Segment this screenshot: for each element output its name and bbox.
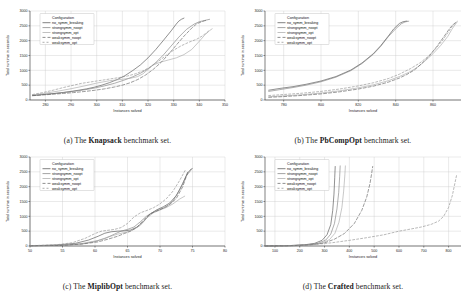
caption-b-suffix: benchmark set. (362, 136, 411, 145)
svg-text:700: 700 (421, 249, 427, 253)
legend: Configurationno_symm_breakingstrongsymm_… (40, 160, 94, 191)
caption-b: (b) The PbCompOpt benchmark set. (235, 136, 471, 145)
svg-text:2500: 2500 (19, 170, 27, 174)
svg-text:860: 860 (430, 103, 436, 107)
svg-text:1500: 1500 (254, 200, 262, 204)
svg-text:200: 200 (297, 249, 303, 253)
legend-label-no_symm_breaking: no_symm_breaking (52, 21, 83, 25)
svg-text:60: 60 (93, 249, 97, 253)
svg-text:2000: 2000 (19, 39, 27, 43)
svg-text:2500: 2500 (254, 170, 262, 174)
svg-text:Configuration: Configuration (52, 162, 74, 166)
svg-text:55: 55 (61, 249, 65, 253)
caption-d-bold: Crafted (328, 282, 354, 291)
cactus-plot-miplibopt: 05001000150020002500300050556065707580In… (0, 146, 235, 272)
series-line-strongsymm_opt (30, 196, 185, 246)
svg-text:0: 0 (260, 244, 262, 248)
caption-d-prefix: (d) The (303, 282, 328, 291)
cactus-plot-pbcompopt: 050010001500200025003000780800820840860I… (235, 0, 471, 126)
panel-b: 050010001500200025003000780800820840860I… (235, 0, 471, 146)
legend-label-no_symm_breaking: no_symm_breaking (287, 167, 318, 171)
legend-label-weaksymm_noopt: weaksymm_noopt (287, 182, 316, 186)
caption-c-suffix: benchmark set. (123, 282, 172, 291)
svg-text:0: 0 (260, 98, 262, 102)
svg-text:280: 280 (42, 103, 48, 107)
legend-label-weaksymm_noopt: weaksymm_noopt (287, 36, 316, 40)
svg-text:500: 500 (21, 229, 27, 233)
svg-text:65: 65 (126, 249, 130, 253)
svg-text:350: 350 (222, 103, 228, 107)
svg-text:1500: 1500 (19, 54, 27, 58)
legend: Configurationno_symm_breakingstrongsymm_… (275, 160, 329, 191)
legend-label-strongsymm_opt: strongsymm_opt (52, 177, 79, 181)
legend-label-strongsymm_opt: strongsymm_opt (287, 177, 314, 181)
svg-text:Configuration: Configuration (52, 16, 74, 20)
legend-label-no_symm_breaking: no_symm_breaking (52, 167, 83, 171)
panel-a: 0500100015002000250030002802903003103203… (0, 0, 235, 146)
plot-c: 05001000150020002500300050556065707580In… (0, 146, 235, 272)
legend-label-weaksymm_opt: weaksymm_opt (52, 187, 77, 191)
svg-text:800: 800 (446, 249, 452, 253)
svg-text:2500: 2500 (19, 24, 27, 28)
cactus-plot-crafted: 0500100015002000250030001002003004005006… (235, 146, 471, 272)
svg-text:500: 500 (21, 83, 27, 87)
svg-text:Configuration: Configuration (287, 162, 309, 166)
svg-text:50: 50 (28, 249, 32, 253)
svg-text:1000: 1000 (19, 69, 27, 73)
svg-text:310: 310 (119, 103, 125, 107)
svg-text:1000: 1000 (254, 69, 262, 73)
legend-label-weaksymm_noopt: weaksymm_noopt (52, 182, 81, 186)
svg-text:3000: 3000 (254, 9, 262, 13)
svg-text:3000: 3000 (254, 155, 262, 159)
svg-text:1500: 1500 (254, 54, 262, 58)
svg-text:330: 330 (171, 103, 177, 107)
legend-label-strongsymm_noopt: strongsymm_noopt (52, 26, 83, 30)
svg-text:80: 80 (223, 249, 227, 253)
caption-b-bold: PbCompOpt (320, 136, 362, 145)
caption-d-suffix: benchmark set. (354, 282, 403, 291)
svg-text:500: 500 (256, 83, 262, 87)
caption-c-prefix: (c) The (63, 282, 88, 291)
svg-text:290: 290 (68, 103, 74, 107)
svg-text:Instances solved: Instances solved (349, 109, 377, 113)
svg-text:1000: 1000 (19, 215, 27, 219)
svg-text:1500: 1500 (19, 200, 27, 204)
caption-c: (c) The MiplibOpt benchmark set. (0, 282, 235, 291)
svg-text:Configuration: Configuration (287, 16, 309, 20)
legend-label-strongsymm_noopt: strongsymm_noopt (52, 172, 83, 176)
legend: Configurationno_symm_breakingstrongsymm_… (275, 14, 329, 45)
plot-d: 0500100015002000250030001002003004005006… (235, 146, 471, 272)
cactus-plot-knapsack: 0500100015002000250030002802903003103203… (0, 0, 235, 126)
legend-label-strongsymm_opt: strongsymm_opt (287, 31, 314, 35)
svg-text:300: 300 (322, 249, 328, 253)
legend-label-no_symm_breaking: no_symm_breaking (287, 21, 318, 25)
svg-text:3000: 3000 (19, 9, 27, 13)
caption-a: (a) The Knapsack benchmark set. (0, 136, 235, 145)
svg-text:340: 340 (196, 103, 202, 107)
caption-b-prefix: (b) The (295, 136, 320, 145)
legend-label-weaksymm_noopt: weaksymm_noopt (52, 36, 81, 40)
svg-text:Total runtime in seconds: Total runtime in seconds (241, 35, 245, 76)
svg-text:2000: 2000 (254, 39, 262, 43)
figure-grid: 0500100015002000250030002802903003103203… (0, 0, 471, 292)
svg-text:0: 0 (25, 98, 27, 102)
svg-text:3000: 3000 (19, 155, 27, 159)
svg-text:820: 820 (355, 103, 361, 107)
svg-text:500: 500 (256, 229, 262, 233)
svg-text:780: 780 (281, 103, 287, 107)
legend-label-weaksymm_opt: weaksymm_opt (287, 41, 312, 45)
caption-c-bold: MiplibOpt (87, 282, 123, 291)
svg-text:500: 500 (371, 249, 377, 253)
plot-b: 050010001500200025003000780800820840860I… (235, 0, 471, 126)
svg-text:320: 320 (145, 103, 151, 107)
svg-text:800: 800 (318, 103, 324, 107)
svg-text:Total runtime in seconds: Total runtime in seconds (241, 181, 245, 222)
caption-d: (d) The Crafted benchmark set. (235, 282, 471, 291)
plot-a: 0500100015002000250030002802903003103203… (0, 0, 235, 126)
panel-d: 0500100015002000250030001002003004005006… (235, 146, 471, 292)
panel-c: 05001000150020002500300050556065707580In… (0, 146, 235, 292)
legend: Configurationno_symm_breakingstrongsymm_… (40, 14, 94, 45)
caption-a-bold: Knapsack (89, 136, 122, 145)
svg-text:300: 300 (94, 103, 100, 107)
svg-text:100: 100 (272, 249, 278, 253)
